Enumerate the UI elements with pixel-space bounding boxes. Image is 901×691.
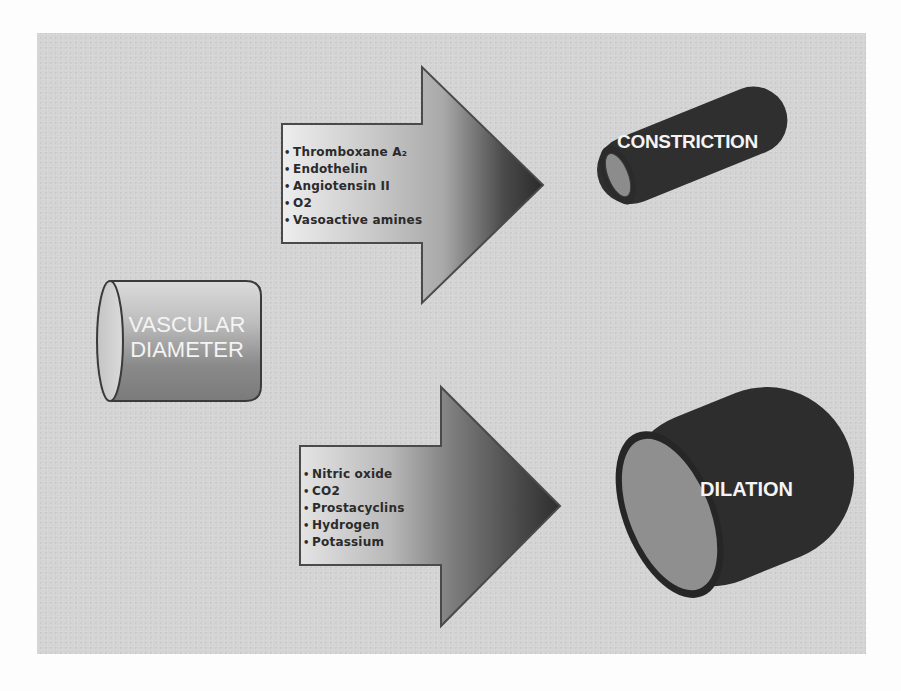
- constriction-agents-list: Thromboxane A₂ Endothelin Angiotensin II…: [284, 144, 422, 229]
- dilation-agent-item: Prostacyclins: [303, 500, 405, 517]
- dilation-label: DILATION: [700, 478, 793, 501]
- dilation-agent-item: Potassium: [303, 534, 405, 551]
- constriction-label: CONSTRICTION: [617, 131, 758, 153]
- dilation-agents-list: Nitric oxide CO2 Prostacyclins Hydrogen …: [303, 466, 405, 551]
- vascular-label-line2: DIAMETER: [117, 337, 257, 362]
- constriction-agent-item: Angiotensin II: [284, 178, 422, 195]
- dilation-agent-item: CO2: [303, 483, 405, 500]
- constriction-agent-item: O2: [284, 195, 422, 212]
- vascular-diameter-label: VASCULAR DIAMETER: [117, 312, 257, 362]
- dilation-agent-item: Nitric oxide: [303, 466, 405, 483]
- diagram-stage: VASCULAR DIAMETER CONSTRICTION DILATION …: [0, 0, 901, 691]
- constriction-agent-item: Thromboxane A₂: [284, 144, 422, 161]
- constriction-agent-item: Vasoactive amines: [284, 212, 422, 229]
- constriction-agent-item: Endothelin: [284, 161, 422, 178]
- vascular-label-line1: VASCULAR: [117, 312, 257, 337]
- dilation-agent-item: Hydrogen: [303, 517, 405, 534]
